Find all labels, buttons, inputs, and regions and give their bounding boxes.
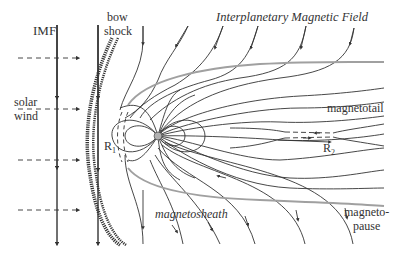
earth-icon xyxy=(154,132,162,140)
sheath-field-lines xyxy=(120,26,354,135)
tail-reconnection xyxy=(230,124,384,148)
lower-sheath-field-lines xyxy=(125,142,353,244)
solar-wind-label-2: wind xyxy=(14,110,38,123)
solar-wind-arrows xyxy=(18,58,78,210)
r1-main: R xyxy=(104,139,112,153)
imf-label: IMF xyxy=(33,24,56,37)
r1-sub: 1 xyxy=(112,146,116,155)
solar-wind-label-1: solar xyxy=(14,96,37,109)
magnetotail-label: magnetotail xyxy=(327,102,384,115)
r2-main: R xyxy=(323,141,331,155)
bow-shock-label-2: shock xyxy=(104,25,132,38)
dayside-reconnection xyxy=(118,112,129,162)
bow-shock-label-1: bow xyxy=(107,11,128,24)
magnetopause-label-1: magneto- xyxy=(344,206,389,219)
r1-label: R1 xyxy=(104,140,116,157)
r2-label: R2 xyxy=(323,142,335,159)
magnetosheath-label: magnetosheath xyxy=(155,208,228,221)
imf-title: Interplanetary Magnetic Field xyxy=(216,11,368,24)
magnetopause-label-2: pause xyxy=(353,220,380,233)
r2-sub: 2 xyxy=(331,148,335,157)
magnetosphere-diagram xyxy=(0,0,398,260)
